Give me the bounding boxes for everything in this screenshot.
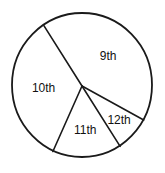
slice-label-10th: 10th xyxy=(32,81,55,95)
slice-label-11th: 11th xyxy=(74,123,96,137)
slice-label-9th: 9th xyxy=(100,49,117,63)
slice-label-12th: 12th xyxy=(107,113,130,127)
pie-chart: 9th12th11th10th xyxy=(0,0,165,173)
